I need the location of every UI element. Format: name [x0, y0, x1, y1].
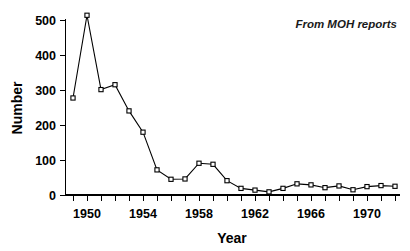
data-point-marker [267, 190, 271, 194]
chart-annotation: From MOH reports [295, 18, 397, 30]
x-axis-title: Year [217, 230, 247, 246]
y-tick-label: 100 [35, 154, 56, 168]
x-tick-label: 1962 [241, 207, 269, 221]
data-point-marker [169, 177, 173, 181]
x-tick-label: 1958 [185, 207, 213, 221]
data-point-marker [141, 130, 145, 134]
data-point-marker [85, 13, 89, 17]
data-point-marker [309, 183, 313, 187]
data-point-marker [351, 188, 355, 192]
x-tick-label: 1966 [297, 207, 325, 221]
x-tick-label: 1970 [353, 207, 381, 221]
data-point-marker [281, 186, 285, 190]
y-tick-label: 200 [35, 119, 56, 133]
y-tick-label: 400 [35, 49, 56, 63]
data-point-marker [113, 83, 117, 87]
data-point-marker [337, 184, 341, 188]
data-point-marker [323, 186, 327, 190]
y-tick-label: 500 [35, 14, 56, 28]
data-point-marker [365, 185, 369, 189]
data-point-marker [211, 162, 215, 166]
data-point-marker [99, 88, 103, 92]
data-point-marker [71, 96, 75, 100]
data-point-marker [197, 161, 201, 165]
data-point-marker [155, 168, 159, 172]
y-tick-label: 0 [49, 189, 56, 203]
x-tick-label: 1950 [73, 207, 101, 221]
data-point-marker [379, 183, 383, 187]
y-tick-label: 300 [35, 84, 56, 98]
chart-figure: 0 100 200 300 400 500 1950 1954 1958 196… [0, 0, 410, 251]
data-point-marker [183, 177, 187, 181]
data-point-marker [127, 109, 131, 113]
data-point-marker [253, 188, 257, 192]
y-axis-title: Number [9, 81, 25, 134]
data-point-marker [393, 184, 397, 188]
data-point-marker [225, 179, 229, 183]
line-chart: 0 100 200 300 400 500 1950 1954 1958 196… [0, 0, 410, 251]
data-point-marker [239, 186, 243, 190]
data-point-marker [295, 182, 299, 186]
x-tick-label: 1954 [129, 207, 157, 221]
